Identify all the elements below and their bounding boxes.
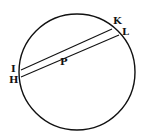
circle-chord-diagram: K L P I H <box>0 0 143 136</box>
chord-hl <box>21 35 119 77</box>
label-h: H <box>9 74 18 85</box>
label-k: K <box>113 15 122 26</box>
circle <box>19 14 135 130</box>
label-l: L <box>122 26 129 37</box>
label-i: I <box>11 63 16 74</box>
label-p: P <box>60 56 68 67</box>
